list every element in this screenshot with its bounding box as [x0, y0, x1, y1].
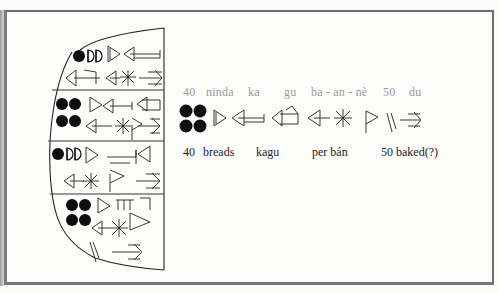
translation-40: 40 [183, 145, 195, 160]
translit-gu: gu [284, 85, 296, 100]
translit-ba-an-ne: ba - an - nè [311, 85, 367, 100]
translit-ka: ka [248, 85, 260, 100]
translit-du: du [409, 85, 421, 100]
translit-40: 40 [183, 85, 195, 100]
cuneiform-signs [64, 46, 421, 262]
translation-breads: breads [203, 145, 234, 160]
translit-ninda: ninda [206, 85, 234, 100]
translit-50: 50 [383, 85, 395, 100]
translation-kagu: kagu [256, 145, 279, 160]
translation-baked: 50 baked(?) [381, 145, 438, 160]
translation-per-ban: per bán [312, 145, 348, 160]
